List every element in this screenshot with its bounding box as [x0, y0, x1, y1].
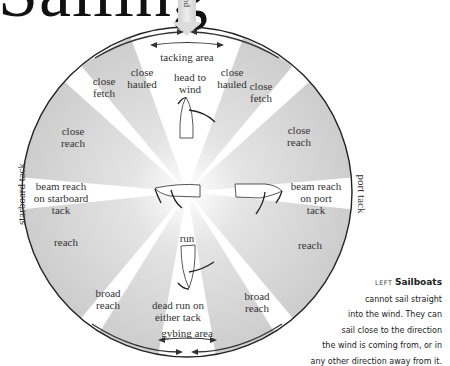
caption-line: the wind is coming from, or in — [202, 338, 442, 354]
label-broad-reach-left: broad reach — [95, 287, 120, 311]
label-beam-reach-port: beam reach on port tack — [291, 180, 341, 216]
label-close-hauled-left: close hauled — [127, 66, 156, 90]
caption-lead: Sailboats — [395, 277, 442, 287]
tacking-area-label: tacking area — [160, 51, 213, 63]
port-tack-label: port tack — [356, 175, 368, 214]
starboard-tack-label: starboard tack — [15, 163, 27, 225]
figure-caption: LEFT Sailboats cannot sail straight into… — [202, 275, 442, 366]
caption-line: sail close to the direction — [202, 323, 442, 339]
caption-line: cannot sail straight — [202, 292, 442, 308]
label-dead-run: dead run on either tack — [152, 299, 204, 323]
caption-line: any other direction away from it. — [202, 354, 442, 366]
caption-kicker: LEFT — [375, 279, 392, 287]
label-close-hauled-right: close hauled — [217, 66, 246, 90]
caption-line: into the wind. They can — [202, 307, 442, 323]
label-close-fetch-left: close fetch — [93, 75, 116, 99]
label-close-reach-right: close reach — [287, 124, 311, 148]
label-close-reach-left: close reach — [61, 125, 85, 149]
label-head-to-wind: head to wind — [174, 71, 206, 95]
label-reach-left: reach — [54, 236, 78, 248]
tacking-area-arrow — [150, 42, 224, 48]
label-reach-right: reach — [298, 239, 322, 251]
label-beam-reach-starboard: beam reach on starboard tack — [34, 180, 89, 216]
wind-label: wind — [182, 0, 192, 9]
label-run: run — [180, 232, 195, 244]
label-close-fetch-right: close fetch — [250, 80, 273, 104]
